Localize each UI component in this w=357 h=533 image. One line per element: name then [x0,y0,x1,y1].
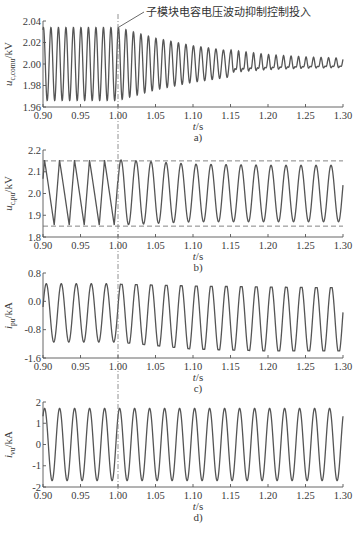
x-tick-label: 1.15 [221,110,239,121]
y-tick-label: 1.9 [28,210,41,221]
y-axis-label: uc,pu/kV [2,176,17,211]
x-tick-label: 1.05 [146,240,164,251]
waveform-u-c-pu [43,160,343,225]
y-tick-label: 1 [36,418,41,429]
y-tick-label: -1.6 [24,353,41,364]
y-axis-label: uc,comu/kV [2,42,17,86]
y-tick-label: 2.0 [28,188,41,199]
x-tick-label: 1.05 [146,110,164,121]
y-tick-label: 0.0 [28,296,41,307]
x-tick-label: 0.95 [71,240,89,251]
x-tick-label: 0.95 [71,490,89,501]
y-tick-label: 0 [36,439,41,450]
x-tick-label: 1.30 [334,110,352,121]
y-tick-label: 2.1 [28,166,41,177]
x-tick-label: 1.15 [221,490,239,501]
x-tick-label: 1.30 [334,490,352,501]
x-tick-label: 1.30 [334,240,352,251]
panel-label: c) [194,382,203,395]
y-tick-label: 2.02 [23,37,41,48]
waveform-i-vu [43,408,343,480]
chart-panel-a: 0.900.951.001.051.101.151.201.251.302.04… [2,16,352,145]
y-tick-label: 0.8 [28,268,41,279]
x-tick-label: 0.95 [71,361,89,372]
annotation-text: 子模块电容电压波动抑制控制投入 [146,5,311,19]
waveform-i-pu [43,284,343,351]
y-tick-label: 2.04 [23,16,42,27]
y-axis-label: ipu/kA [2,302,17,329]
x-tick-label: 1.20 [259,110,277,121]
x-tick-label: 1.05 [146,361,164,372]
x-tick-label: 0.95 [71,110,89,121]
y-tick-label: -0.8 [24,324,41,335]
y-tick-label: -1 [32,460,41,471]
y-tick-label: 1.96 [23,102,41,113]
y-tick-label: 2 [36,397,41,408]
panel-label: a) [194,131,203,144]
y-tick-label: -2 [32,482,41,493]
y-tick-label: 1.8 [28,232,41,243]
y-tick-label: 1.98 [23,80,41,91]
x-tick-label: 1.05 [146,490,164,501]
chart-panel-d: 0.900.951.001.051.101.151.201.251.30210-… [2,397,352,525]
y-tick-label: 2.2 [28,145,41,156]
chart-panel-b: 0.900.951.001.051.101.151.201.251.302.22… [2,145,352,275]
x-tick-label: 1.20 [259,361,277,372]
waveform-u-c-comu [43,28,343,101]
x-tick-label: 1.25 [296,361,314,372]
figure: 0.900.951.001.051.101.151.201.251.302.04… [0,0,357,533]
x-tick-label: 1.25 [296,490,314,501]
x-tick-label: 1.30 [334,361,352,372]
y-tick-label: 2.00 [23,59,41,70]
x-tick-label: 1.25 [296,240,314,251]
annotation-leader [119,12,144,27]
chart-panel-c: 0.900.951.001.051.101.151.201.251.300.80… [2,268,352,396]
x-tick-label: 1.15 [221,240,239,251]
y-axis-label: ivu/kA [2,431,17,458]
panel-label: b) [193,261,203,274]
x-tick-label: 1.20 [259,490,277,501]
x-tick-label: 1.25 [296,110,314,121]
x-tick-label: 1.15 [221,361,239,372]
x-tick-label: 1.20 [259,240,277,251]
panel-label: d) [193,511,203,524]
